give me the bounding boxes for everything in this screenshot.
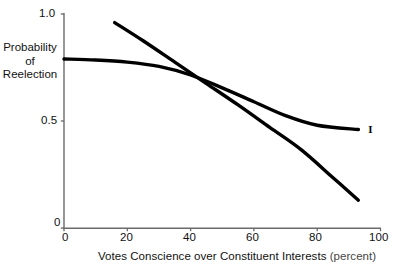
x-tick-label-0: 0 bbox=[62, 231, 69, 243]
x-axis-title-main: Votes Conscience over Constituent Intere… bbox=[98, 250, 326, 262]
x-axis-title-unit: (percent) bbox=[330, 250, 376, 262]
x-tick-label-80: 80 bbox=[309, 231, 322, 243]
curve-label-I: I bbox=[368, 123, 372, 135]
curve-I bbox=[64, 59, 358, 130]
y-tick-label-0: 0 bbox=[54, 216, 61, 228]
y-tick-label-0point5: 0.5 bbox=[41, 114, 57, 126]
y-axis-title-line-1: Probability bbox=[0, 41, 60, 55]
x-tick-label-60: 60 bbox=[246, 231, 259, 243]
y-tick-label-1point0: 1.0 bbox=[39, 7, 55, 19]
x-tick-label-100: 100 bbox=[369, 231, 389, 243]
y-axis-title: Probability of Reelection bbox=[0, 41, 60, 82]
chart-canvas bbox=[0, 0, 405, 268]
data-curves bbox=[64, 23, 358, 201]
x-tick-label-20: 20 bbox=[120, 231, 133, 243]
y-axis-title-line-3: Reelection bbox=[0, 68, 60, 82]
curve-steep-curve bbox=[115, 23, 359, 201]
x-tick-label-40: 40 bbox=[183, 231, 196, 243]
x-axis-title: Votes Conscience over Constituent Intere… bbox=[98, 250, 376, 262]
axes-group bbox=[63, 13, 381, 229]
y-axis-title-line-2: of bbox=[0, 55, 60, 69]
